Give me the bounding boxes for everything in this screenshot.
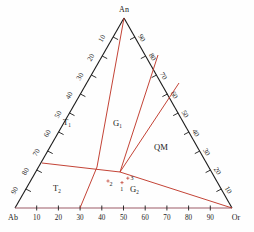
vertex-label-ab: Ab [8, 213, 18, 222]
tick-label-bottom-90: 90 [207, 214, 215, 222]
cross-marker-3-icon [126, 177, 129, 180]
tick-label-bottom-80: 80 [185, 214, 193, 222]
left-axis-tick-labels: 10 20 30 40 50 60 70 80 90 [10, 33, 108, 196]
triangle-outline [15, 18, 232, 208]
field-label-t1-sub: 1 [68, 122, 71, 128]
field-label-qm-text: QM [154, 142, 168, 152]
tick-right-90 [130, 37, 135, 40]
tick-right-10 [216, 189, 221, 192]
field-label-g2: G2 [130, 184, 139, 195]
point-label-3: 3 [130, 175, 133, 181]
tick-left-50 [70, 113, 75, 116]
field-label-t2: T2 [53, 183, 61, 194]
tick-label-left-80: 80 [20, 166, 31, 177]
field-label-qm: QM [154, 142, 168, 152]
vertex-label-an: An [119, 5, 129, 14]
boundary-g1-right [120, 55, 158, 172]
right-axis-tick-labels: 90 80 70 60 50 40 30 20 10 [136, 33, 233, 196]
tick-label-bottom-20: 20 [55, 214, 63, 222]
field-boundaries [42, 18, 232, 208]
tick-right-60 [162, 94, 167, 97]
sample-point-3-group: 3 [126, 175, 133, 181]
tick-right-80 [141, 56, 146, 59]
tick-right-20 [206, 170, 211, 173]
boundary-qm-left [120, 83, 179, 172]
tick-right-70 [152, 75, 157, 78]
tick-label-bottom-50: 50 [120, 214, 128, 222]
vertex-label-or: Or [232, 213, 241, 222]
tick-left-80 [37, 170, 42, 173]
tick-label-bottom-60: 60 [142, 214, 150, 222]
tick-left-30 [91, 75, 96, 78]
ternary-plot-svg: 10 20 30 40 50 60 70 80 90 90 80 70 60 [0, 0, 254, 232]
tick-label-left-70: 70 [31, 147, 42, 158]
sample-point-2-group: 2 [106, 179, 112, 187]
right-axis-ticks [130, 37, 221, 192]
tick-left-60 [59, 132, 64, 135]
boundary-g2-left [80, 167, 97, 208]
ternary-diagram: 10 20 30 40 50 60 70 80 90 90 80 70 60 [0, 0, 254, 232]
left-axis-ticks [26, 37, 118, 192]
bottom-axis-tick-labels: 10 20 30 40 50 60 70 80 90 [33, 214, 214, 222]
tick-label-left-90: 90 [10, 185, 21, 196]
tick-left-10 [113, 37, 118, 40]
tick-right-40 [184, 132, 189, 135]
tick-label-left-30: 30 [75, 71, 86, 82]
field-label-g1: G1 [113, 118, 122, 129]
tick-left-90 [26, 189, 31, 192]
tick-right-50 [173, 113, 178, 116]
cross-marker-1-icon [120, 181, 123, 184]
sample-point-1-group: 1 [120, 181, 123, 192]
field-label-t1: T1 [63, 117, 71, 128]
field-label-g1-sub: 1 [119, 123, 122, 129]
tick-right-30 [195, 151, 200, 154]
tick-label-left-20: 20 [86, 52, 97, 63]
tick-left-20 [102, 56, 107, 59]
tick-left-40 [80, 94, 85, 97]
tick-label-bottom-10: 10 [33, 214, 41, 222]
point-label-1: 1 [120, 186, 123, 192]
field-label-t2-sub: 2 [58, 188, 61, 194]
tick-label-bottom-70: 70 [163, 214, 171, 222]
boundary-t1-t2 [42, 163, 120, 172]
tick-label-bottom-30: 30 [77, 214, 85, 222]
tick-label-left-10: 10 [97, 33, 108, 44]
tick-label-left-40: 40 [64, 90, 75, 101]
tick-label-bottom-40: 40 [98, 214, 106, 222]
field-label-g2-sub: 2 [136, 189, 139, 195]
tick-label-left-60: 60 [42, 128, 53, 139]
tick-left-70 [48, 151, 53, 154]
point-label-2: 2 [110, 181, 113, 187]
